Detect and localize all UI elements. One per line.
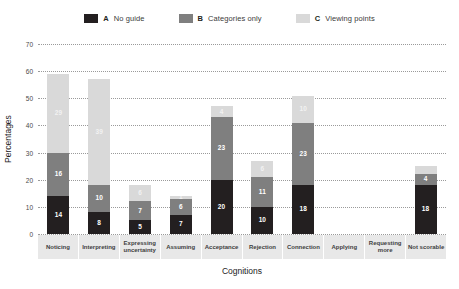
legend-label: Viewing points [325, 14, 375, 23]
bar-group[interactable]: 81039 [79, 44, 120, 234]
bar-value-label: 6 [261, 166, 265, 173]
bar-value-label: 6 [138, 190, 142, 197]
bar-value-label: 7 [138, 208, 142, 215]
x-axis-category-noticing[interactable]: Noticing [38, 235, 79, 259]
y-axis-title: Percentages [2, 44, 14, 234]
bar-group[interactable]: 10116 [242, 44, 283, 234]
bar-stack: 141629 [47, 74, 69, 234]
bar-segment[interactable]: 10 [88, 185, 110, 212]
bar-segment[interactable]: 4 [211, 106, 233, 117]
legend-key: C [315, 14, 321, 23]
bar-value-label: 18 [422, 206, 429, 213]
plot-area: 010203040506070 141629810395767612023410… [38, 44, 446, 234]
bar-stack: 20234 [211, 106, 233, 234]
y-axis-tick-label: 40 [26, 123, 33, 130]
bar-stack: 184 [415, 166, 437, 234]
x-axis-category-assuming[interactable]: Assuming [161, 235, 202, 259]
legend-label: No guide [114, 14, 145, 23]
bar-segment[interactable]: 7 [170, 215, 192, 234]
bar-segment[interactable]: 23 [211, 117, 233, 179]
y-axis-tick-label: 50 [26, 96, 33, 103]
bar-segment[interactable]: 14 [47, 196, 69, 234]
bar-value-label: 23 [218, 145, 225, 152]
legend-key: B [198, 14, 204, 23]
y-axis-tick-label: 0 [29, 232, 33, 239]
bar-stack: 761 [170, 196, 192, 234]
bar-value-label: 11 [259, 189, 266, 196]
y-axis-tick-label: 60 [26, 69, 33, 76]
legend-key: A [103, 14, 109, 23]
bar-segment[interactable]: 18 [292, 185, 314, 234]
x-axis-category-applying[interactable]: Applying [324, 235, 365, 259]
bar-segment[interactable]: 6 [129, 185, 151, 201]
bar-value-label: 5 [138, 224, 142, 231]
bar-group[interactable]: 761 [160, 44, 201, 234]
bar-value-label: 10 [259, 217, 266, 224]
x-axis-category-requesting-more[interactable]: Requesting more [365, 235, 406, 259]
bar-value-label: 7 [179, 221, 183, 228]
bar-segment[interactable]: 6 [170, 199, 192, 215]
bar-value-label: 4 [424, 176, 428, 183]
legend-swatch-icon [179, 14, 193, 23]
bar-group[interactable]: 182310 [283, 44, 324, 234]
bar-value-label: 6 [179, 204, 183, 211]
legend-swatch-icon [84, 14, 98, 23]
bar-value-label: 39 [95, 129, 102, 136]
bar-segment[interactable]: 39 [88, 79, 110, 185]
bar-stack: 576 [129, 185, 151, 234]
bar-value-label: 4 [220, 109, 224, 116]
bar-segment[interactable]: 10 [251, 207, 273, 234]
bar-segment[interactable] [415, 166, 437, 174]
bars-layer: 141629810395767612023410116182310184 [38, 44, 446, 234]
y-axis-tick-label: 10 [26, 205, 33, 212]
bar-group[interactable] [324, 44, 365, 234]
bar-value-label: 20 [218, 204, 225, 211]
bar-segment[interactable]: 4 [415, 174, 437, 185]
bar-group[interactable]: 141629 [38, 44, 79, 234]
bar-stack: 81039 [88, 79, 110, 234]
bar-group[interactable] [364, 44, 405, 234]
bar-segment[interactable]: 8 [88, 212, 110, 234]
bar-group[interactable]: 20234 [201, 44, 242, 234]
bar-value-label: 29 [55, 110, 62, 117]
bar-segment[interactable]: 16 [47, 153, 69, 196]
y-axis-tick-label: 70 [26, 42, 33, 49]
bar-segment[interactable]: 11 [251, 177, 273, 207]
bar-value-label: 8 [97, 220, 101, 227]
x-axis-category-rejection[interactable]: Rejection [243, 235, 284, 259]
x-axis-title: Cognitions [38, 266, 446, 276]
x-axis-category-connection[interactable]: Connection [283, 235, 324, 259]
bar-value-label: 10 [95, 195, 102, 202]
bar-segment[interactable]: 23 [292, 123, 314, 185]
bar-group[interactable]: 576 [120, 44, 161, 234]
x-axis-category-strip: NoticingInterpretingExpressing uncertain… [38, 235, 446, 259]
legend-label: Categories only [208, 14, 262, 23]
bar-stack: 182310 [292, 96, 314, 234]
y-axis-tick-label: 30 [26, 150, 33, 157]
bar-segment[interactable]: 29 [47, 74, 69, 153]
legend-item-c[interactable]: CViewing points [296, 14, 375, 23]
bar-value-label: 18 [299, 206, 306, 213]
bar-segment[interactable]: 5 [129, 220, 151, 234]
bar-value-label: 10 [299, 106, 306, 113]
bar-segment[interactable]: 10 [292, 96, 314, 123]
bar-segment[interactable]: 6 [251, 161, 273, 177]
bar-value-label: 16 [55, 171, 62, 178]
legend-item-b[interactable]: BCategories only [179, 14, 262, 23]
chart-legend: ANo guideBCategories onlyCViewing points [0, 10, 459, 26]
legend-swatch-icon [296, 14, 310, 23]
bar-value-label: 23 [299, 151, 306, 158]
x-axis-category-expressing-uncertainty[interactable]: Expressing uncertainty [120, 235, 161, 259]
y-axis-tick-label: 20 [26, 177, 33, 184]
x-axis-category-interpreting[interactable]: Interpreting [79, 235, 120, 259]
bar-stack: 10116 [251, 161, 273, 234]
x-axis-category-not-scorable[interactable]: Not scorable [406, 235, 446, 259]
bar-group[interactable]: 184 [405, 44, 446, 234]
bar-segment[interactable]: 7 [129, 201, 151, 220]
bar-value-label: 14 [55, 212, 62, 219]
bar-segment[interactable]: 18 [415, 185, 437, 234]
bar-segment[interactable]: 20 [211, 180, 233, 234]
x-axis-category-acceptance[interactable]: Acceptance [202, 235, 243, 259]
legend-item-a[interactable]: ANo guide [84, 14, 144, 23]
